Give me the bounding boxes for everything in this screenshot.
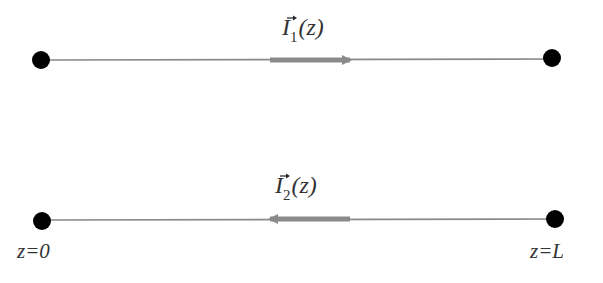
- current-2-argument: (z): [292, 172, 317, 198]
- current-2-label: I2(z): [275, 172, 317, 199]
- wire-1: [32, 49, 561, 69]
- current-2-symbol: I: [275, 172, 283, 198]
- current-1-subscript: 1: [290, 29, 298, 45]
- endpoint-label-left: z=0: [17, 239, 50, 264]
- wire-1-left-terminal-dot: [32, 51, 50, 69]
- wire-2-left-terminal-dot: [33, 212, 51, 230]
- wire-2: [33, 210, 564, 230]
- diagram-canvas: [0, 0, 603, 283]
- current-1-symbol: I: [282, 14, 290, 40]
- wire-2-right-terminal-dot: [546, 210, 564, 228]
- current-2-subscript: 2: [283, 187, 291, 203]
- endpoint-label-right: z=L: [530, 239, 564, 264]
- current-1-label: I1(z): [282, 14, 324, 41]
- wire-1-right-terminal-dot: [543, 49, 561, 67]
- current-1-argument: (z): [299, 14, 324, 40]
